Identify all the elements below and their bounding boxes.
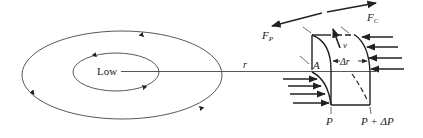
outer-isobar bbox=[22, 31, 222, 119]
radius-label: r bbox=[243, 59, 247, 70]
delta-r-dimension: Δr bbox=[333, 56, 367, 67]
svg-text:FP: FP bbox=[261, 29, 274, 43]
svg-text:v: v bbox=[343, 40, 347, 50]
flow-arrow-icon bbox=[192, 108, 202, 110]
flow-arrow-icon bbox=[28, 86, 33, 93]
outer-pressure-arrows bbox=[362, 37, 404, 69]
outer-pressure-label: P + ΔP bbox=[360, 115, 394, 127]
inner-pressure-arrows bbox=[283, 79, 329, 103]
pressure-force-arrow: FP bbox=[261, 13, 322, 43]
air-parcel bbox=[300, 27, 371, 114]
area-label: A bbox=[312, 59, 320, 71]
velocity-arrow: v bbox=[333, 29, 347, 50]
centrifugal-force-arrow: FC bbox=[327, 3, 379, 25]
center-label: Low bbox=[97, 65, 117, 77]
low-pressure-force-diagram: Low r FP FC bbox=[0, 0, 423, 138]
svg-text:FC: FC bbox=[366, 11, 379, 25]
flow-arrow-icon bbox=[141, 33, 150, 35]
svg-text:Δr: Δr bbox=[339, 56, 350, 67]
inner-pressure-label: P bbox=[325, 115, 333, 127]
